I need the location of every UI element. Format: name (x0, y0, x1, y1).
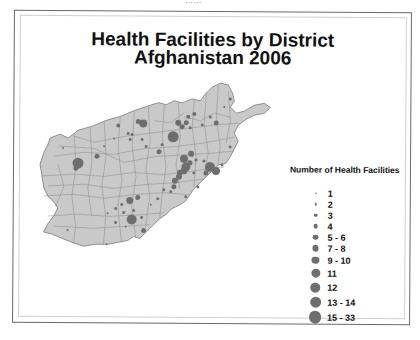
circle-symbol-icon (309, 311, 322, 324)
circle-symbol-icon (312, 245, 319, 252)
cropped-header-text: …… (185, 0, 202, 5)
legend-item: 9 - 10 (307, 254, 399, 268)
map-frame: Health Facilities by District Afghanista… (12, 10, 412, 325)
legend-items: 1 2 3 4 5 - 6 7 - 8 9 - 10 11 12 13 - 14… (307, 188, 399, 326)
circle-symbol-icon (311, 269, 320, 278)
legend-item: 1 (308, 188, 400, 200)
legend-item: 15 - 33 (307, 310, 399, 326)
title-line-2: Afghanistan 2006 (15, 48, 411, 68)
legend-item: 4 (308, 221, 400, 233)
map-title: Health Facilities by District Afghanista… (15, 30, 411, 68)
map-legend: Number of Health Facilities 1 2 3 4 5 - … (289, 164, 400, 325)
legend-item: 3 (308, 210, 400, 222)
circle-symbol-icon (313, 234, 319, 240)
circle-symbol-icon (315, 203, 318, 206)
circle-symbol-icon (315, 192, 317, 194)
legend-item: 5 - 6 (308, 232, 400, 244)
legend-title: Number of Health Facilities (290, 164, 400, 175)
legend-item: 2 (308, 199, 400, 211)
afghanistan-district-map (33, 76, 274, 287)
legend-item: 13 - 14 (307, 295, 399, 311)
circle-symbol-icon (310, 282, 320, 292)
circle-symbol-icon (314, 213, 318, 217)
circle-symbol-icon (313, 224, 318, 229)
circle-symbol-icon (312, 256, 320, 264)
legend-item: 11 (307, 267, 399, 281)
legend-item: 12 (307, 280, 399, 296)
circle-symbol-icon (310, 297, 321, 308)
legend-item: 7 - 8 (307, 243, 399, 255)
